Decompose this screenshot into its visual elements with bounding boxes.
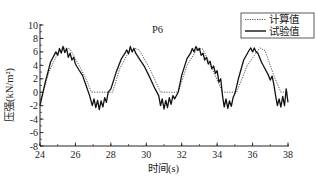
x-tick-label: 28 — [106, 149, 116, 160]
y-tick-label: 4 — [33, 60, 38, 71]
legend-test-label: 试验值 — [269, 25, 300, 37]
y-axis-title: 压强(kN/m²) — [4, 67, 16, 122]
x-tick-label: 34 — [212, 149, 222, 160]
series-calculated-line — [40, 48, 288, 102]
y-tick-label: -6 — [30, 127, 38, 138]
series-measured-line — [40, 47, 288, 110]
plot-area — [40, 47, 288, 110]
legend-calc-label: 计算值 — [269, 13, 300, 25]
pressure-time-chart: 1086420-2-4-6-8 2426283032343638 P6 时间(s… — [0, 0, 316, 184]
x-tick-label: 24 — [35, 149, 45, 160]
y-ticks: 1086420-2-4-6-8 — [28, 20, 44, 152]
legend: 计算值 试验值 — [241, 13, 314, 38]
x-tick-label: 32 — [177, 149, 187, 160]
y-tick-label: 6 — [33, 46, 38, 57]
x-tick-label: 38 — [283, 149, 293, 160]
y-tick-label: 2 — [33, 73, 38, 84]
y-tick-label: -4 — [30, 114, 38, 125]
x-tick-label: 36 — [248, 149, 258, 160]
x-axis-title: 时间(s) — [148, 162, 180, 175]
chart-title: P6 — [152, 24, 163, 35]
y-tick-label: 0 — [33, 87, 38, 98]
x-tick-label: 30 — [141, 149, 151, 160]
y-tick-label: -2 — [30, 100, 38, 111]
x-tick-label: 26 — [70, 149, 80, 160]
x-ticks: 2426283032343638 — [35, 143, 293, 161]
axes: 1086420-2-4-6-8 2426283032343638 — [28, 20, 293, 161]
y-tick-label: 10 — [28, 20, 38, 31]
y-tick-label: 8 — [33, 33, 38, 44]
